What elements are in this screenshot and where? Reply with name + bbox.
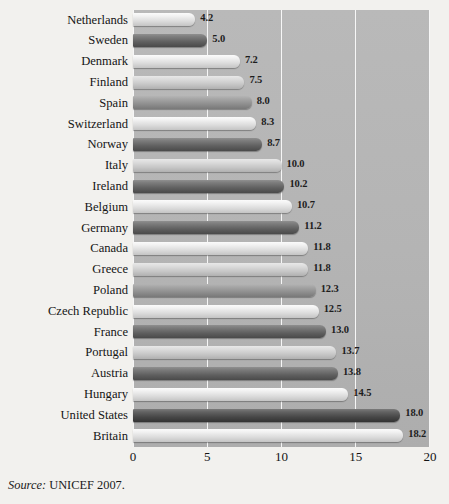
bar-value-label: 10.0 — [287, 158, 305, 169]
category-label: Belgium — [0, 200, 128, 214]
category-label: Italy — [0, 158, 128, 172]
axis-tick-label: 5 — [204, 449, 211, 465]
bar-row: 11.8 — [133, 239, 430, 260]
axis-tick-label: 10 — [275, 449, 288, 465]
bar-value-label: 12.5 — [324, 303, 342, 314]
bar — [133, 263, 308, 276]
category-label: Greece — [0, 262, 128, 276]
category-label: Denmark — [0, 54, 128, 68]
source-value: UNICEF 2007. — [49, 478, 125, 492]
category-labels: NetherlandsSwedenDenmarkFinlandSpainSwit… — [0, 10, 128, 447]
axis-tick-label: 0 — [130, 449, 137, 465]
bar-value-label: 14.5 — [353, 387, 371, 398]
category-label: Sweden — [0, 33, 128, 47]
axis-tick-label: 15 — [349, 449, 362, 465]
bar-row: 10.0 — [133, 156, 430, 177]
bar-row: 18.0 — [133, 405, 430, 426]
bar-value-label: 8.7 — [267, 137, 280, 148]
bar — [133, 388, 348, 401]
bar-rows: 4.25.07.27.58.08.38.710.010.210.711.211.… — [133, 10, 430, 447]
bar-row: 5.0 — [133, 31, 430, 52]
bar-row: 12.3 — [133, 281, 430, 302]
bar — [133, 284, 316, 297]
bar — [133, 221, 299, 234]
bar-value-label: 13.0 — [331, 324, 349, 335]
bar-value-label: 12.3 — [321, 283, 339, 294]
bar-row: 10.2 — [133, 176, 430, 197]
bar — [133, 34, 207, 47]
bar-value-label: 7.5 — [249, 74, 262, 85]
axis-tick-label: 20 — [424, 449, 437, 465]
bar-row: 11.8 — [133, 260, 430, 281]
bar-row: 8.7 — [133, 135, 430, 156]
bar-row: 8.0 — [133, 93, 430, 114]
bar-row: 13.0 — [133, 322, 430, 343]
category-label: Austria — [0, 366, 128, 380]
bar-value-label: 18.0 — [405, 407, 423, 418]
bar — [133, 159, 282, 172]
bar-row: 10.7 — [133, 197, 430, 218]
bar-value-label: 8.3 — [261, 116, 274, 127]
category-label: United States — [0, 408, 128, 422]
bar-row: 12.5 — [133, 301, 430, 322]
source-note: Source: UNICEF 2007. — [8, 478, 125, 493]
bar — [133, 13, 195, 26]
bar-value-label: 13.7 — [341, 345, 359, 356]
bar-row: 11.2 — [133, 218, 430, 239]
category-label: Finland — [0, 75, 128, 89]
bar-value-label: 5.0 — [212, 33, 225, 44]
bar — [133, 346, 336, 359]
bar-row: 7.5 — [133, 72, 430, 93]
bar — [133, 325, 326, 338]
bar-row: 8.3 — [133, 114, 430, 135]
bar — [133, 305, 319, 318]
bar — [133, 429, 403, 442]
bar — [133, 76, 244, 89]
bar — [133, 367, 338, 380]
bar-row: 13.8 — [133, 364, 430, 385]
category-label: Switzerland — [0, 117, 128, 131]
bar-value-label: 10.2 — [289, 178, 307, 189]
bar-value-label: 11.8 — [313, 241, 330, 252]
bar — [133, 117, 256, 130]
bar — [133, 200, 292, 213]
bar-row: 13.7 — [133, 343, 430, 364]
category-label: Germany — [0, 221, 128, 235]
bar-value-label: 8.0 — [257, 95, 270, 106]
category-label: Norway — [0, 137, 128, 151]
bar — [133, 409, 400, 422]
category-label: Spain — [0, 96, 128, 110]
bar-row: 14.5 — [133, 385, 430, 406]
bar — [133, 138, 262, 151]
category-label: Poland — [0, 283, 128, 297]
category-label: Canada — [0, 241, 128, 255]
bar-value-label: 10.7 — [297, 199, 315, 210]
source-label: Source: — [8, 478, 46, 492]
chart-figure: NetherlandsSwedenDenmarkFinlandSpainSwit… — [0, 0, 449, 504]
category-label: Ireland — [0, 179, 128, 193]
bar-value-label: 13.8 — [343, 366, 361, 377]
bar-row: 7.2 — [133, 52, 430, 73]
category-label: Netherlands — [0, 13, 128, 27]
bar-row: 4.2 — [133, 10, 430, 31]
bar — [133, 55, 240, 68]
bar-value-label: 7.2 — [245, 54, 258, 65]
bar — [133, 180, 284, 193]
category-label: Britain — [0, 429, 128, 443]
bar-value-label: 4.2 — [200, 12, 213, 23]
bar-value-label: 18.2 — [408, 428, 426, 439]
category-label: Czech Republic — [0, 304, 128, 318]
bar — [133, 96, 252, 109]
bar-value-label: 11.8 — [313, 262, 330, 273]
x-axis: 05101520 — [133, 449, 430, 471]
category-label: Portugal — [0, 345, 128, 359]
category-label: France — [0, 325, 128, 339]
bar-value-label: 11.2 — [304, 220, 321, 231]
bar-row: 18.2 — [133, 426, 430, 447]
bar — [133, 242, 308, 255]
category-label: Hungary — [0, 387, 128, 401]
